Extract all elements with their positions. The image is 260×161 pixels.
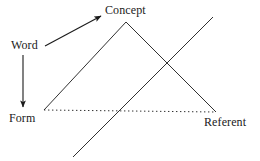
- edge-form-to-referent-dotted-line: [44, 110, 215, 112]
- edge-concept-to-referent-line: [126, 22, 216, 112]
- node-label-form: Form: [9, 112, 35, 124]
- edge-crossing-diagonal-line: [73, 17, 213, 157]
- diagram-canvas: [0, 0, 260, 161]
- node-label-referent: Referent: [204, 116, 246, 128]
- node-label-word: Word: [11, 39, 38, 51]
- edge-form-to-concept-line: [44, 22, 126, 110]
- semiotic-triangle-diagram: Concept Word Form Referent: [0, 0, 260, 161]
- edge-word-to-concept-arrow: [45, 16, 101, 46]
- node-label-concept: Concept: [105, 4, 146, 16]
